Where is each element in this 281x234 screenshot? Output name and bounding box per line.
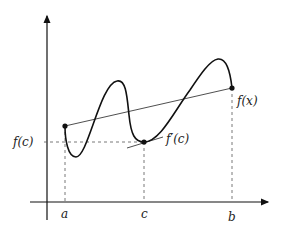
label-a: a: [61, 207, 68, 221]
secant-line: [65, 88, 232, 126]
label-b: b: [228, 210, 236, 224]
point-b: [229, 85, 234, 90]
label-c: c: [141, 207, 148, 221]
label-fc: f(c): [12, 135, 34, 149]
mean-value-diagram: f(c) f(x) f′(c) a c b: [0, 0, 281, 234]
label-fprime-c: f′(c): [165, 132, 190, 146]
point-a: [62, 123, 67, 128]
label-fx: f(x): [236, 94, 258, 108]
function-curve: [65, 59, 232, 157]
point-c: [141, 139, 146, 144]
